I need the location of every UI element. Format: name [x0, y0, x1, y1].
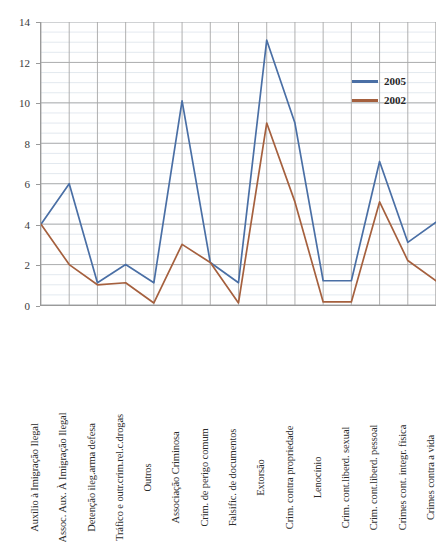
x-axis-tick-label: Crim. de perigo comum — [199, 428, 210, 526]
y-axis-tick-label: 8 — [25, 138, 31, 149]
x-axis-tick-label: Falsific. de documentos — [228, 428, 239, 526]
x-axis-tick-label: Assoc. Aux. À Imigração Ilegal — [58, 412, 69, 542]
x-axis-tick-label: Associação Criminosa — [171, 431, 182, 523]
x-axis-tick-label: Crim. contra propriedade — [284, 425, 295, 528]
x-axis-tick-label: Crim. cont.liberd. pessoal — [369, 424, 380, 530]
legend-label: 2005 — [384, 76, 406, 87]
y-axis: 02468101214 — [0, 22, 36, 306]
legend-item: 2002 — [352, 91, 440, 110]
legend-color-swatch — [352, 80, 378, 83]
x-axis-tick-label: Auxílio à Imigração Ilegal — [30, 423, 41, 531]
y-axis-tick-label: 0 — [25, 301, 31, 312]
y-axis-tick-label: 14 — [19, 17, 30, 28]
series-lines — [41, 22, 436, 305]
chart-legend: 20052002 — [352, 72, 440, 110]
y-axis-tick-label: 6 — [25, 179, 31, 190]
y-axis-tick-label: 10 — [19, 98, 30, 109]
legend-color-swatch — [352, 99, 378, 102]
y-axis-tick-mark — [36, 306, 40, 307]
x-axis-tick-label: Extorsão — [256, 459, 267, 496]
x-axis-tick-label: Outros — [143, 463, 154, 491]
y-axis-tick-label: 4 — [25, 219, 31, 230]
x-axis-tick-label: Crimes cont. integr. física — [397, 424, 408, 529]
x-axis-tick-label: Tráfico e outr.crim.rel.c.drogas — [114, 413, 125, 540]
y-axis-tick-label: 12 — [19, 57, 30, 68]
legend-item: 2005 — [352, 72, 440, 91]
plot-area — [40, 22, 436, 306]
x-axis-tick-label: Detenção ileg.arma defesa — [86, 423, 97, 532]
x-axis-tick-label: Lenocínio — [312, 456, 323, 498]
x-axis-labels: Auxílio à Imigração IlegalAssoc. Aux. À … — [40, 308, 436, 477]
y-axis-tick-label: 2 — [25, 260, 31, 271]
x-axis-tick-label: Crim. cont.liberd. sexual — [341, 426, 352, 528]
legend-label: 2002 — [384, 95, 406, 106]
x-axis-tick-label: Crimes contra a vida — [426, 434, 437, 519]
